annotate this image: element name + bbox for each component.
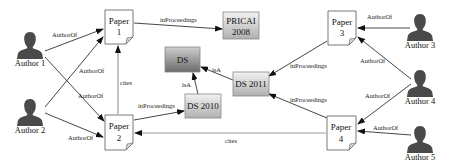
venue-label: DS bbox=[177, 55, 189, 65]
edge-paper2-cites-paper1: cites bbox=[118, 46, 132, 114]
edge-label: cites bbox=[120, 79, 132, 86]
edge-paper1-pricai: inProceedings bbox=[134, 16, 222, 29]
venue-node-pricai-2008[interactable]: PRICAI 2008 bbox=[223, 12, 259, 39]
author-label: Author 3 bbox=[405, 40, 435, 50]
person-icon bbox=[407, 14, 433, 41]
venue-node-ds-2010[interactable]: DS 2010 bbox=[185, 94, 221, 118]
edge-paper2-ds2010: inProceedings bbox=[134, 102, 184, 120]
edge-label: AuthorOf bbox=[365, 92, 391, 99]
venue-label: DS 2011 bbox=[235, 79, 266, 89]
author-node-2[interactable]: Author 2 bbox=[15, 99, 45, 135]
edge-label: AuthorOf bbox=[78, 92, 104, 99]
edge-paper4-ds2011: inProceedings bbox=[269, 94, 327, 118]
author-node-5[interactable]: Author 5 bbox=[405, 126, 435, 162]
edge-label: AuthorOf bbox=[68, 134, 94, 141]
author-label: Author 2 bbox=[15, 125, 45, 135]
paper-label: Paper bbox=[332, 17, 353, 27]
paper-node-2[interactable]: Paper 2 bbox=[105, 115, 133, 150]
edge-label: isA bbox=[182, 81, 191, 88]
paper-number: 3 bbox=[340, 28, 345, 38]
edge-label: isA bbox=[212, 66, 221, 73]
venue-label: DS 2010 bbox=[187, 101, 219, 111]
paper-number: 2 bbox=[117, 133, 122, 143]
author-label: Author 4 bbox=[405, 96, 436, 106]
venue-node-ds-2011[interactable]: DS 2011 bbox=[233, 72, 269, 96]
paper-label: Paper bbox=[109, 121, 130, 131]
edge-label: AuthorOf bbox=[367, 13, 393, 20]
paper-number: 4 bbox=[339, 134, 344, 144]
venue-node-ds[interactable]: DS bbox=[165, 47, 200, 72]
edge-author3-paper3: AuthorOf bbox=[358, 13, 410, 28]
edge-ds2011-isa-ds: isA bbox=[201, 66, 233, 80]
paper-label: Paper bbox=[331, 122, 352, 132]
edge-label: inProceedings bbox=[290, 96, 327, 103]
edge-label: inProceedings bbox=[160, 16, 197, 23]
paper-node-3[interactable]: Paper 3 bbox=[328, 11, 356, 45]
edge-label: AuthorOf bbox=[373, 124, 399, 131]
edge-author4-paper4: AuthorOf bbox=[358, 84, 411, 124]
edge-label: inProceedings bbox=[138, 102, 175, 109]
author-node-1[interactable]: Author 1 bbox=[15, 32, 45, 68]
edge-author4-paper3: AuthorOf bbox=[358, 37, 411, 79]
edge-label: cites bbox=[225, 137, 237, 144]
author-node-4[interactable]: Author 4 bbox=[405, 70, 436, 106]
paper-node-4[interactable]: Paper 4 bbox=[327, 116, 356, 150]
person-icon bbox=[407, 126, 433, 153]
paper-node-1[interactable]: Paper 1 bbox=[105, 10, 133, 44]
edge-label: AuthorOf bbox=[360, 57, 386, 64]
venue-year: 2008 bbox=[232, 27, 251, 37]
person-icon bbox=[17, 99, 43, 126]
edge-paper3-ds2011: inProceedings bbox=[269, 41, 327, 76]
edge-label: inProceedings bbox=[290, 62, 327, 69]
edge-ds2010-isa-ds: isA bbox=[182, 73, 198, 94]
paper-number: 1 bbox=[117, 27, 122, 37]
knowledge-graph-diagram: AuthorOf AuthorOf AuthorOf AuthorOf cite… bbox=[0, 0, 455, 168]
person-icon bbox=[407, 70, 433, 97]
paper-label: Paper bbox=[109, 16, 130, 26]
edge-label: AuthorOf bbox=[52, 31, 78, 38]
author-node-3[interactable]: Author 3 bbox=[405, 14, 435, 50]
edge-label: AuthorOf bbox=[79, 67, 105, 74]
edge-paper4-cites-paper2: cites bbox=[135, 133, 326, 144]
edge-author5-paper4: AuthorOf bbox=[358, 124, 411, 135]
author-label: Author 1 bbox=[15, 58, 45, 68]
author-label: Author 5 bbox=[405, 152, 435, 162]
venue-label: PRICAI bbox=[226, 16, 256, 26]
edge-author2-paper2: AuthorOf bbox=[45, 113, 103, 141]
person-icon bbox=[17, 32, 43, 59]
